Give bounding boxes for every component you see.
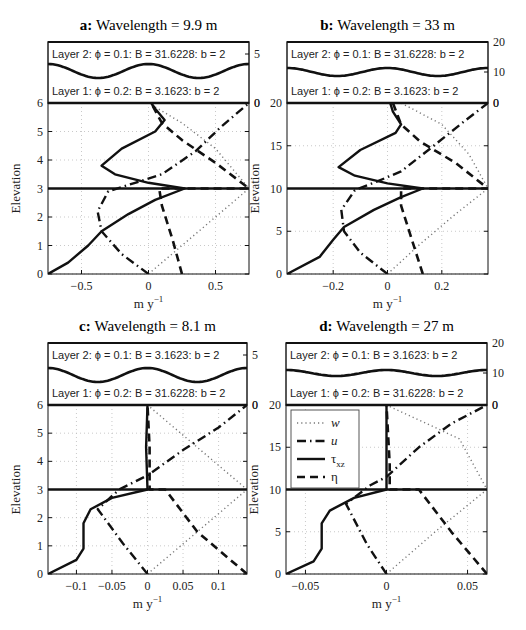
y-tick-label: 2 [37,511,43,525]
x-axis-label: m y−1 [373,294,402,311]
y-tick-label: 0 [37,567,43,581]
y-tick-label: 15 [269,440,281,454]
x-tick-label: −0.1 [66,579,88,593]
right-tick-label: 0 [252,398,258,412]
right-tick-label: 5 [252,348,258,362]
y-tick-label: 10 [270,182,282,196]
y-tick-label: 0 [37,267,43,281]
x-tick-label: 0 [384,579,390,593]
legend-label: η [331,469,338,484]
y-tick-label: 15 [270,139,282,153]
figure-canvas: a: Wavelength = 9.9 mLayer 2: ϕ = 0.1: B… [0,0,526,630]
right-tick-label: 20 [492,336,504,350]
x-axis-label: m y−1 [133,594,162,611]
x-tick-label: 0.1 [211,579,226,593]
y-tick-label: 5 [276,224,282,238]
panel-a: a: Wavelength = 9.9 mLayer 2: ϕ = 0.1: B… [8,17,260,311]
interface-wave [286,370,487,376]
right-tick-label: 5 [254,47,260,61]
y-axis-label: Elevation [246,464,261,514]
x-tick-label: −0.2 [322,279,344,293]
x-tick-label: 0 [146,279,152,293]
y-axis-label: Elevation [8,163,23,213]
right-tick-label: 0 [492,398,498,412]
layer2-label: Layer 2: ϕ = 0.1: B = 31.6228: b = 2 [291,48,464,60]
x-tick-label: −0.05 [98,579,126,593]
layer1-label: Layer 1: ϕ = 0.2: B = 31.6228: b = 2 [290,387,463,399]
interface-wave [48,64,249,78]
y-tick-label: 4 [37,153,43,167]
layer1-label: Layer 1: ϕ = 0.2: B = 3.1623: b = 2 [291,85,458,97]
y-tick-label: 20 [270,96,282,110]
y-tick-label: 4 [37,454,43,468]
y-tick-label: 2 [37,210,43,224]
right-tick-label: 20 [493,35,505,49]
x-tick-label: 0.05 [457,579,478,593]
y-tick-label: 5 [275,525,281,539]
y-tick-label: 5 [37,426,43,440]
layer2-label: Layer 2: ϕ = 0.1: B = 31.6228: b = 2 [52,48,225,60]
right-tick-label: 10 [492,366,504,380]
y-tick-label: 3 [37,182,43,196]
panel-title: c: Wavelength = 8.1 m [79,318,216,334]
x-tick-label: 0.5 [208,279,223,293]
y-tick-label: 20 [269,398,281,412]
panel-c: c: Wavelength = 8.1 mLayer 2: ϕ = 0.1: B… [8,318,258,611]
x-axis-label: m y−1 [134,294,163,311]
panel-title: a: Wavelength = 9.9 m [80,17,218,33]
interface-wave [48,368,247,382]
layer1-label: Layer 1: ϕ = 0.2: B = 3.1623: b = 2 [52,85,219,97]
y-tick-label: 6 [37,96,43,110]
x-tick-label: −0.5 [71,279,93,293]
x-tick-label: 0.05 [173,579,194,593]
right-tick-label: 10 [493,65,505,79]
right-tick-label: 0 [254,96,260,110]
y-tick-label: 3 [37,483,43,497]
panel-title: b: Wavelength = 33 m [320,17,455,33]
y-tick-label: 10 [269,483,281,497]
y-axis-label: Elevation [247,163,262,213]
y-tick-label: 1 [37,539,43,553]
x-tick-label: 0 [385,279,391,293]
panel-title: d: Wavelength = 27 m [319,318,454,334]
legend: wuτxzη [291,410,359,488]
x-tick-label: 0 [145,579,151,593]
x-tick-label: −0.05 [292,579,320,593]
x-axis-label: m y−1 [372,594,401,611]
y-tick-label: 6 [37,398,43,412]
x-tick-label: 0.2 [434,279,449,293]
interface-wave [287,68,488,76]
layer2-label: Layer 2: ϕ = 0.1: B = 3.1623: b = 2 [52,349,219,361]
right-tick-label: 0 [493,96,499,110]
layer2-label: Layer 2: ϕ = 0.1: B = 3.1623: b = 2 [290,349,457,361]
panel-b: b: Wavelength = 33 mLayer 2: ϕ = 0.1: B … [247,17,505,311]
y-tick-label: 0 [275,567,281,581]
y-tick-label: 1 [37,239,43,253]
legend-label: w [331,415,340,430]
panel-d: d: Wavelength = 27 mLayer 2: ϕ = 0.1: B … [246,318,504,611]
y-tick-label: 5 [37,125,43,139]
layer1-label: Layer 1: ϕ = 0.2: B = 31.6228: b = 2 [52,387,225,399]
y-tick-label: 0 [276,267,282,281]
y-axis-label: Elevation [8,464,23,514]
legend-label: u [331,433,338,448]
